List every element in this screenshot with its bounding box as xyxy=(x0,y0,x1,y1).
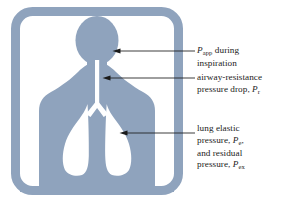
callout-p-e-line-1: lung elastic xyxy=(197,123,245,135)
head-oval xyxy=(76,16,119,65)
trachea-airway xyxy=(95,60,99,106)
callout-p-r-line-2: pressure drop, Pr xyxy=(197,84,262,97)
callout-p-app-line-2: inspiration xyxy=(197,58,239,70)
callout-p-e-line-2: pressure, Pe, xyxy=(197,135,245,148)
figure-page: Papp during inspiration airway-resistanc… xyxy=(0,0,287,202)
callout-p-r: airway-resistance pressure drop, Pr xyxy=(197,72,262,97)
callout-p-e-line-4: pressure, Pex xyxy=(197,159,245,172)
callout-p-app: Papp during inspiration xyxy=(197,45,239,70)
callout-p-e-line-3: and residual xyxy=(197,148,245,160)
callout-p-e: lung elastic pressure, Pe, and residual … xyxy=(197,123,245,173)
human-figure xyxy=(20,16,174,192)
callout-p-r-line-1: airway-resistance xyxy=(197,72,262,84)
torso-base-blend xyxy=(20,186,174,192)
callout-p-app-line-1: Papp during xyxy=(197,45,239,58)
